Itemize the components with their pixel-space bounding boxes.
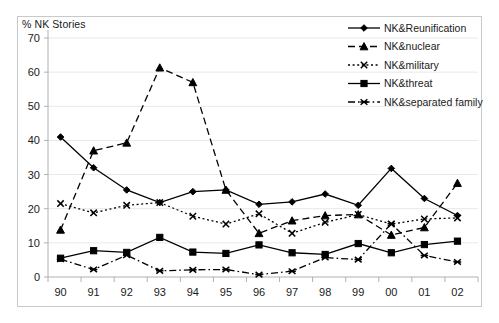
- y-tick-label: 10: [28, 237, 40, 249]
- marker-diamond: [256, 201, 263, 208]
- x-tick-label: 96: [253, 286, 265, 298]
- marker-square: [190, 249, 196, 255]
- y-tick-label: 40: [28, 134, 40, 146]
- series-3: [57, 234, 460, 261]
- marker-star: [388, 221, 395, 226]
- x-tick-label: 99: [352, 286, 364, 298]
- x-tick-label: 97: [286, 286, 298, 298]
- marker-square: [289, 250, 295, 256]
- chart-container: % NK Stories 010203040506070909192939495…: [0, 0, 499, 323]
- series-0: [57, 134, 461, 219]
- marker-diamond: [361, 25, 368, 32]
- marker-diamond: [289, 199, 296, 206]
- legend-label: NK&threat: [384, 77, 433, 89]
- legend-label: NK&Reunification: [384, 22, 466, 34]
- marker-x: [256, 211, 262, 217]
- legend-label: NK&military: [384, 59, 440, 71]
- y-tick-label: 70: [28, 32, 40, 44]
- marker-x: [57, 200, 63, 206]
- x-tick-label: 01: [418, 286, 430, 298]
- legend-item[interactable]: NK&military: [348, 59, 440, 71]
- marker-x: [361, 62, 367, 68]
- y-tick-label: 50: [28, 100, 40, 112]
- y-tick-label: 0: [34, 271, 40, 283]
- marker-square: [157, 234, 163, 240]
- marker-square: [421, 241, 427, 247]
- marker-square: [91, 248, 97, 254]
- series-1: [57, 64, 462, 239]
- marker-square: [223, 250, 229, 256]
- x-tick-label: 91: [87, 286, 99, 298]
- marker-square: [355, 240, 361, 246]
- marker-star: [354, 257, 361, 262]
- marker-triangle: [57, 226, 65, 233]
- x-tick-label: 93: [154, 286, 166, 298]
- series-line: [61, 68, 458, 235]
- marker-star: [222, 267, 229, 272]
- marker-square: [454, 238, 460, 244]
- x-tick-label: 90: [54, 286, 66, 298]
- x-tick-label: 95: [220, 286, 232, 298]
- marker-diamond: [322, 191, 329, 198]
- legend-item[interactable]: NK&nuclear: [348, 40, 441, 52]
- y-tick-label: 30: [28, 169, 40, 181]
- x-tick-label: 00: [385, 286, 397, 298]
- marker-star: [454, 259, 461, 264]
- marker-x: [289, 230, 295, 236]
- marker-star: [421, 253, 428, 258]
- legend-item[interactable]: NK&Reunification: [348, 22, 466, 34]
- marker-star: [360, 99, 367, 104]
- chart-plot: 0102030405060709091929394959697989900010…: [0, 0, 499, 323]
- marker-square: [361, 80, 367, 86]
- marker-x: [223, 221, 229, 227]
- marker-square: [256, 242, 262, 248]
- marker-square: [388, 250, 394, 256]
- legend-label: NK&separated family: [384, 96, 483, 108]
- marker-triangle: [189, 78, 197, 85]
- marker-star: [288, 268, 295, 273]
- marker-triangle: [387, 231, 395, 238]
- marker-triangle: [454, 179, 462, 186]
- legend: NK&ReunificationNK&nuclearNK&militaryNK&…: [348, 22, 483, 108]
- marker-star: [156, 268, 163, 273]
- x-tick-label: 02: [451, 286, 463, 298]
- marker-diamond: [190, 188, 197, 195]
- y-tick-label: 60: [28, 66, 40, 78]
- marker-star: [189, 267, 196, 272]
- x-tick-label: 92: [121, 286, 133, 298]
- legend-label: NK&nuclear: [384, 40, 441, 52]
- marker-triangle: [156, 64, 164, 71]
- marker-x: [90, 210, 96, 216]
- y-tick-label: 20: [28, 203, 40, 215]
- marker-star: [90, 267, 97, 272]
- legend-item[interactable]: NK&threat: [348, 77, 433, 89]
- x-tick-label: 94: [187, 286, 199, 298]
- x-tick-label: 98: [319, 286, 331, 298]
